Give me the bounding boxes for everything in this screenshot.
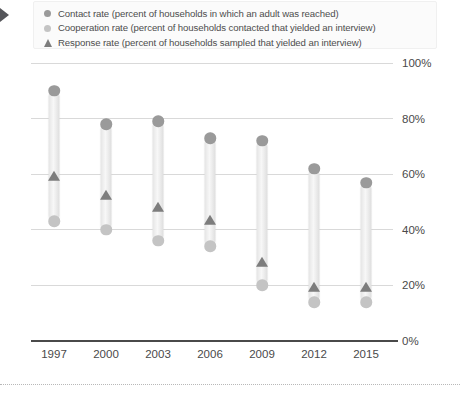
response-rate-marker[interactable] xyxy=(152,201,164,211)
y-axis-tick-label: 80% xyxy=(402,113,425,125)
gridline xyxy=(31,285,393,286)
y-axis-tick-label: 100% xyxy=(402,57,431,69)
range-bar[interactable] xyxy=(309,169,320,302)
gridline xyxy=(31,174,393,175)
contact-rate-marker[interactable] xyxy=(152,116,164,128)
x-axis-tick-label: 2012 xyxy=(301,348,327,360)
x-axis-tick-label: 2006 xyxy=(197,348,223,360)
x-axis-tick-label: 2000 xyxy=(93,348,119,360)
triangle-icon xyxy=(44,39,52,47)
cooperation-rate-marker[interactable] xyxy=(204,241,216,253)
cooperation-rate-marker[interactable] xyxy=(152,235,164,247)
y-axis-tick-label: 0% xyxy=(402,335,419,347)
axis-baseline xyxy=(31,340,398,341)
legend-item-label: Response rate (percent of households sam… xyxy=(58,37,362,49)
response-rate-marker[interactable] xyxy=(48,171,60,181)
cooperation-rate-marker[interactable] xyxy=(48,216,60,228)
range-bar[interactable] xyxy=(205,138,216,246)
circle-icon xyxy=(44,25,51,32)
contact-rate-marker[interactable] xyxy=(204,132,216,144)
legend-item-label: Contact rate (percent of households in w… xyxy=(58,8,339,20)
y-axis-tick-label: 40% xyxy=(402,224,425,236)
chart-legend: Contact rate (percent of households in w… xyxy=(33,1,437,49)
legend-item[interactable]: Cooperation rate (percent of households … xyxy=(44,22,428,36)
contact-rate-marker[interactable] xyxy=(256,135,268,147)
x-axis-tick-label: 2003 xyxy=(145,348,171,360)
range-bar[interactable] xyxy=(361,183,372,303)
contact-rate-marker[interactable] xyxy=(100,118,112,130)
range-bar[interactable] xyxy=(49,91,60,222)
cooperation-rate-marker[interactable] xyxy=(360,296,372,308)
circle-icon xyxy=(44,10,51,17)
cooperation-rate-marker[interactable] xyxy=(256,280,268,292)
response-rate-marker[interactable] xyxy=(360,282,372,292)
response-rate-marker[interactable] xyxy=(308,282,320,292)
legend-item-label: Cooperation rate (percent of households … xyxy=(58,22,376,34)
cooperation-rate-marker[interactable] xyxy=(308,296,320,308)
chart-root: Contact rate (percent of households in w… xyxy=(0,0,460,395)
contact-rate-marker[interactable] xyxy=(48,85,60,97)
range-bar[interactable] xyxy=(257,141,268,286)
y-axis-tick-label: 60% xyxy=(402,168,425,180)
response-rate-marker[interactable] xyxy=(100,190,112,200)
x-axis-tick-label: 1997 xyxy=(41,348,67,360)
contact-rate-marker[interactable] xyxy=(308,163,320,175)
y-axis-tick-label: 20% xyxy=(402,279,425,291)
gridline xyxy=(31,229,393,230)
x-axis-tick-label: 2015 xyxy=(353,348,379,360)
bottom-divider xyxy=(0,384,460,385)
contact-rate-marker[interactable] xyxy=(360,177,372,189)
contact-rate-swatch-icon xyxy=(44,10,58,17)
x-axis-tick-label: 2009 xyxy=(249,348,275,360)
legend-item[interactable]: Response rate (percent of households sam… xyxy=(44,36,428,50)
cooperation-rate-swatch-icon xyxy=(44,25,58,32)
response-rate-marker[interactable] xyxy=(204,215,216,225)
plot-area: 100%80%60%40%20%0%1997200020032006200920… xyxy=(0,0,460,395)
range-bar[interactable] xyxy=(101,124,112,230)
gridline xyxy=(31,118,393,119)
response-rate-marker[interactable] xyxy=(256,257,268,267)
response-rate-swatch-icon xyxy=(44,39,58,47)
left-pointer-icon xyxy=(0,8,9,22)
legend-item[interactable]: Contact rate (percent of households in w… xyxy=(44,7,428,21)
cooperation-rate-marker[interactable] xyxy=(100,224,112,236)
range-bar[interactable] xyxy=(153,121,164,241)
gridline xyxy=(31,63,393,64)
